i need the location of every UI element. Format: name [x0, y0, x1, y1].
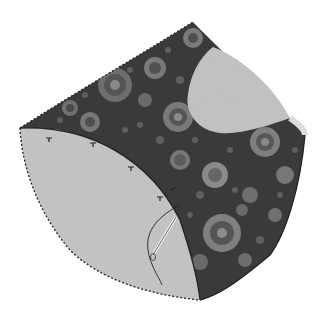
illustration-canvas: Illustration of a curved fabric patch wi… [0, 0, 323, 317]
quilt-illustration [0, 0, 323, 317]
